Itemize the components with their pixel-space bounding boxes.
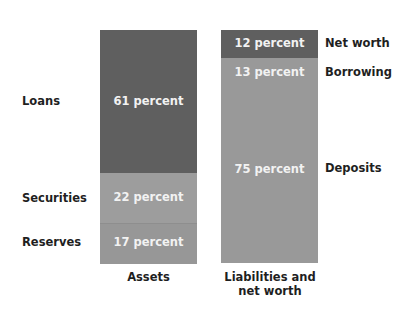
liabilities-axis-label-line1: Liabilities and (205, 270, 335, 284)
securities-value: 22 percent (100, 190, 197, 204)
liabilities-bar: 12 percent 13 percent 75 percent (221, 30, 318, 263)
securities-segment: 22 percent (100, 173, 197, 223)
loans-value: 61 percent (100, 94, 197, 108)
deposits-segment: 75 percent (221, 88, 318, 263)
deposits-value: 75 percent (221, 162, 318, 176)
borrowing-value: 13 percent (221, 65, 318, 79)
liabilities-axis-label: Liabilities and net worth (205, 270, 335, 298)
net-worth-label: Net worth (325, 36, 390, 50)
borrowing-label: Borrowing (325, 65, 392, 79)
net-worth-value: 12 percent (221, 36, 318, 50)
loans-segment: 61 percent (100, 30, 197, 173)
reserves-value: 17 percent (100, 235, 197, 249)
reserves-label: Reserves (22, 235, 81, 249)
loans-label: Loans (22, 94, 60, 108)
borrowing-segment: 13 percent (221, 58, 318, 88)
assets-axis-label: Assets (100, 270, 197, 284)
securities-label: Securities (22, 191, 87, 205)
deposits-label: Deposits (325, 161, 382, 175)
reserves-segment: 17 percent (100, 223, 197, 264)
liabilities-axis-label-line2: net worth (205, 284, 335, 298)
assets-bar: 61 percent 22 percent 17 percent (100, 30, 197, 263)
net-worth-segment: 12 percent (221, 30, 318, 58)
